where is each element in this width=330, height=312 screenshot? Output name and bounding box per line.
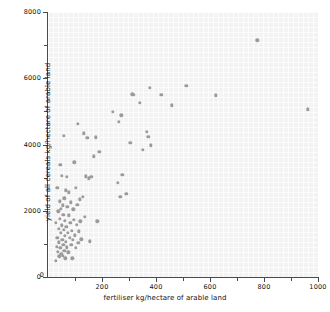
x-tick-label: 400 <box>149 283 162 291</box>
x-tick-label: 1000 <box>309 283 326 291</box>
x-tick-major <box>210 278 211 282</box>
x-tick-minor <box>237 278 238 281</box>
x-tick-minor <box>291 278 292 281</box>
x-tick-label: 0 <box>40 271 44 279</box>
x-axis-title: fertiliser kg/hectare of arable land <box>0 294 330 302</box>
x-tick-major <box>102 278 103 282</box>
x-tick-label: 200 <box>95 283 108 291</box>
y-tick-label: 4000 <box>24 141 41 149</box>
x-tick-major <box>264 278 265 282</box>
x-tick-minor <box>129 278 130 281</box>
x-tick-minor <box>75 278 76 281</box>
y-tick-label: 8000 <box>24 8 41 16</box>
plot-area <box>48 12 318 277</box>
y-axis-title: yield of all cereals kg/hectare of arabl… <box>44 17 52 267</box>
y-tick-major <box>43 12 47 13</box>
x-tick-label: 800 <box>257 283 270 291</box>
x-tick-label: 600 <box>203 283 216 291</box>
scatter-plot-figure: 0200040006000800002004006008001000 ferti… <box>0 0 330 312</box>
y-tick-label: 2000 <box>24 207 41 215</box>
x-tick-minor <box>183 278 184 281</box>
x-tick-major <box>318 278 319 282</box>
y-tick-label: 6000 <box>24 74 41 82</box>
x-tick-major <box>156 278 157 282</box>
